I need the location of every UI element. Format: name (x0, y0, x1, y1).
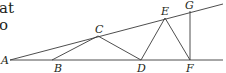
label-b: B (53, 62, 62, 73)
segment-ef (165, 18, 190, 60)
upper-ray (10, 4, 223, 60)
segment-bc (52, 36, 98, 60)
geometry-diagram: A B C D E F G (0, 0, 226, 73)
label-a: A (0, 54, 9, 67)
label-f: F (185, 62, 194, 73)
label-g: G (185, 0, 194, 12)
label-e: E (160, 5, 169, 18)
segment-cd (98, 36, 141, 60)
label-d: D (136, 62, 146, 73)
label-c: C (95, 23, 104, 36)
